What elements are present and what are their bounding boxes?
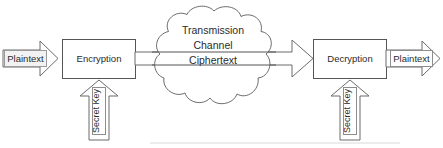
diagram-canvas: Plaintext Encryption Transmission Channe… [0, 0, 443, 148]
output-plaintext-label: Plaintext [393, 53, 430, 64]
input-plaintext-tag: Plaintext [5, 51, 47, 67]
decryption-node: Decryption [314, 40, 387, 79]
secret-key-left-label: Secret Key [91, 88, 101, 133]
encryption-node: Encryption [63, 40, 136, 79]
decryption-label: Decryption [327, 53, 372, 64]
encryption-label: Encryption [77, 53, 122, 64]
input-plaintext-label: Plaintext [7, 53, 44, 64]
symmetric-encryption-diagram: Plaintext Encryption Transmission Channe… [0, 0, 443, 148]
secret-key-right-group: Secret Key [331, 80, 369, 140]
cloud-label-line3: Ciphertext [189, 54, 237, 66]
secret-key-right-label: Secret Key [342, 88, 352, 133]
cloud-label-line2: Channel [193, 39, 232, 51]
transmission-cloud-group: Transmission Channel Ciphertext [152, 6, 276, 103]
cloud-label-line1: Transmission [182, 24, 244, 36]
output-plaintext-tag: Plaintext [391, 51, 433, 67]
secret-key-left-group: Secret Key [80, 80, 118, 140]
